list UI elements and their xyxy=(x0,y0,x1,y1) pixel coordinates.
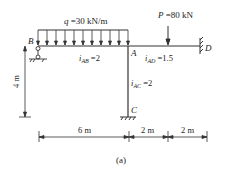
node-A-label: A xyxy=(130,48,137,58)
point-load-label: P =80 kN xyxy=(157,10,194,20)
fixed-support-C-icon xyxy=(120,117,136,120)
distributed-load-arrows xyxy=(37,30,130,45)
height-dimension-label: 4 m xyxy=(11,75,21,88)
stiffness-AD-label: iAD =1.5 xyxy=(145,53,173,64)
stiffness-AB-label: iAB =2 xyxy=(79,53,100,64)
frame-diagram: q =30 kN/m P =80 kN B A D C iAB xyxy=(0,0,233,174)
node-C-label: C xyxy=(131,105,138,115)
node-D-label: D xyxy=(204,43,212,53)
span-AB-label: 6 m xyxy=(78,125,91,135)
span-A-P-label: 2 m xyxy=(141,125,154,135)
fixed-support-D-icon xyxy=(200,37,203,54)
node-B-label: B xyxy=(28,36,34,46)
point-load-arrow xyxy=(166,26,170,45)
roller-support-icon xyxy=(29,47,47,63)
stiffness-AC-label: iAC =2 xyxy=(131,78,152,89)
span-P-D-label: 2 m xyxy=(181,125,194,135)
distributed-load-label: q =30 kN/m xyxy=(64,16,108,26)
figure-caption: (a) xyxy=(116,155,126,165)
